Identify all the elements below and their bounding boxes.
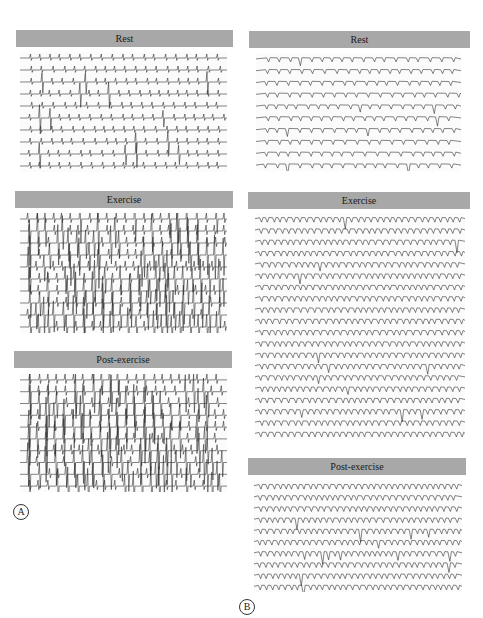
panel-b-rest-ecg bbox=[256, 53, 461, 171]
panel-b-post-exercise-ecg bbox=[254, 480, 462, 592]
panel-a-exercise-header: Exercise bbox=[15, 191, 233, 208]
panel-b-rest-header: Rest bbox=[249, 31, 470, 48]
panel-b-exercise-header: Exercise bbox=[248, 192, 470, 209]
panel-a-rest-ecg bbox=[20, 52, 227, 172]
panel-b-label: B bbox=[239, 599, 255, 615]
panel-b-post-exercise-header: Post-exercise bbox=[248, 458, 466, 475]
panel-b-exercise-ecg bbox=[255, 213, 465, 439]
panel-a-post-exercise-ecg bbox=[20, 374, 227, 492]
panel-a-post-exercise-header: Post-exercise bbox=[14, 351, 232, 368]
panel-a-exercise-ecg bbox=[20, 213, 227, 333]
panel-a-label: A bbox=[13, 504, 29, 520]
panel-a-rest-header: Rest bbox=[16, 30, 233, 47]
